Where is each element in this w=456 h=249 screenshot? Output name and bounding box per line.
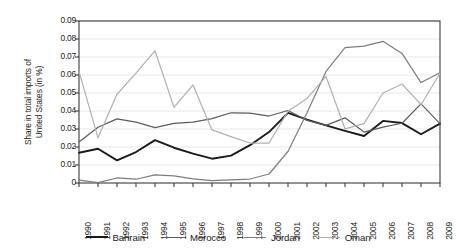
y-tick-label: 0.01	[48, 160, 76, 168]
plot-frame	[79, 21, 440, 183]
series-line-jordan	[79, 41, 440, 182]
y-tick-label: 0.08	[48, 34, 76, 42]
y-tick-label: 0.02	[48, 142, 76, 150]
legend-label: Jordan	[271, 232, 300, 243]
legend-item-morocco[interactable]: Morocco	[163, 232, 226, 243]
y-tick-label: 0.07	[48, 52, 76, 60]
legend-item-bahrain[interactable]: Bahrain	[86, 232, 145, 243]
y-tick-label: 0.04	[48, 106, 76, 114]
y-axis-title-line1: Share in total imports of	[23, 59, 33, 145]
legend-label: Bahrain	[113, 232, 145, 243]
chart-legend: BahrainMoroccoJordanOman	[0, 228, 456, 246]
x-axis-tick-labels: 1990199119921993199419951996199719981999…	[0, 186, 456, 226]
line-chart-figure: Share in total imports of United States …	[0, 0, 456, 249]
y-tick-label: 0.03	[48, 124, 76, 132]
legend-line-swatch-icon	[163, 237, 185, 238]
y-tick-label: 0.09	[48, 16, 76, 24]
legend-line-swatch-icon	[318, 237, 340, 238]
data-series-lines	[79, 41, 440, 182]
legend-item-jordan[interactable]: Jordan	[244, 232, 300, 243]
legend-line-swatch-icon	[244, 237, 266, 238]
series-line-morocco	[79, 104, 440, 142]
y-axis-title-line2: United States (in %)	[34, 59, 45, 145]
y-tick-label: 0.05	[48, 88, 76, 96]
series-line-bahrain	[79, 113, 440, 161]
y-tick-label: 0.06	[48, 70, 76, 78]
legend-item-oman[interactable]: Oman	[318, 232, 371, 243]
legend-label: Morocco	[190, 232, 226, 243]
legend-label: Oman	[345, 232, 371, 243]
legend-line-swatch-icon	[86, 236, 108, 238]
